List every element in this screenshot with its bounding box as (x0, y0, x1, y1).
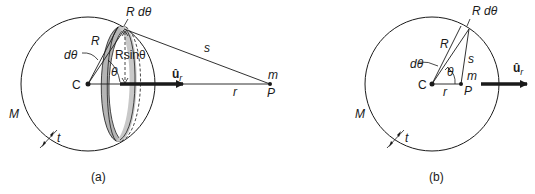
caption-b: (b) (429, 170, 444, 184)
s-line-a (124, 29, 270, 84)
label-radius-a: R (91, 34, 100, 48)
label-m-b: m (467, 69, 477, 83)
label-r-dtheta-b: R dθ (472, 4, 498, 18)
label-s-b: s (468, 52, 474, 66)
label-mass-a: M (9, 107, 19, 121)
label-center-a: C (72, 78, 81, 92)
center-point-a (86, 82, 91, 87)
caption-a: (a) (91, 170, 106, 184)
label-center-b: C (418, 78, 427, 92)
label-dtheta-b: dθ (410, 57, 424, 71)
label-r-dtheta-a: R dθ (126, 5, 152, 19)
point-p-b (459, 82, 463, 86)
label-p-a: P (267, 86, 275, 100)
label-theta-a: θ (111, 65, 118, 79)
label-mass-b: M (355, 107, 365, 121)
label-r-b: r (443, 85, 448, 99)
label-m-a: m (268, 68, 278, 82)
label-thickness-a: t (57, 131, 61, 145)
panel-b: R dθ R dθ θ s C r m P ûr M t (b) (355, 4, 527, 184)
label-theta-b: θ (447, 65, 454, 79)
label-rsintheta: Rsinθ (115, 48, 146, 62)
label-unit-vector-b: ûr (513, 61, 524, 77)
label-dtheta-a: dθ (64, 48, 78, 62)
label-thickness-b: t (405, 131, 409, 145)
label-p-b: P (464, 84, 472, 98)
figure-canvas: R dθ R dθ Rsinθ θ C s r m P ûr M t (a) (0, 0, 535, 194)
label-s-a: s (204, 41, 210, 55)
panel-a: R dθ R dθ Rsinθ θ C s r m P ûr M t (a) (9, 5, 278, 184)
label-r-a: r (233, 85, 238, 99)
center-point-b (430, 82, 435, 87)
label-unit-vector-a: ûr (172, 67, 183, 83)
label-radius-b: R (440, 37, 449, 51)
